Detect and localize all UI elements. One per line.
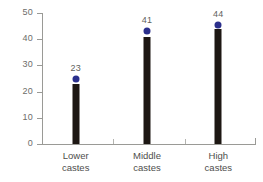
- y-axis-tick-label: 30: [8, 59, 33, 69]
- y-axis-tick-label: 0: [8, 138, 33, 148]
- data-point-marker: [215, 21, 222, 28]
- y-axis-tick-label: 40: [8, 33, 33, 43]
- data-point-marker: [72, 75, 79, 82]
- y-axis-tick-label: 50: [8, 7, 33, 17]
- x-axis-category-label: Middlecastes: [133, 150, 161, 174]
- y-axis-tick: [37, 13, 42, 14]
- y-axis-tick: [37, 144, 42, 145]
- y-axis-tick: [37, 92, 42, 93]
- x-axis-end-tick: [255, 138, 256, 144]
- category-label-line: castes: [62, 162, 89, 174]
- bar: [144, 37, 151, 144]
- y-axis-tick: [37, 118, 42, 119]
- y-axis-tick: [37, 39, 42, 40]
- y-axis-tick-label: 20: [8, 86, 33, 96]
- bar: [215, 29, 222, 144]
- category-label-line: High: [209, 150, 229, 161]
- bar: [72, 84, 79, 144]
- x-axis-tick: [113, 139, 114, 144]
- category-label-line: Middle: [133, 150, 161, 161]
- y-axis-tick-label: 10: [8, 112, 33, 122]
- category-label-line: castes: [205, 162, 232, 174]
- data-value-label: 41: [142, 15, 152, 25]
- data-value-label: 23: [70, 63, 80, 73]
- x-axis-tick: [185, 139, 186, 144]
- category-label-line: Lower: [63, 150, 89, 161]
- category-label-line: castes: [133, 162, 161, 174]
- x-axis-category-label: Highcastes: [205, 150, 232, 174]
- y-axis-tick: [37, 65, 42, 66]
- y-axis-line: [42, 13, 43, 145]
- x-axis-category-label: Lowercastes: [62, 150, 89, 174]
- data-point-marker: [144, 28, 151, 35]
- bar-chart: 01020304050 234144 LowercastesMiddlecast…: [0, 0, 263, 182]
- data-value-label: 44: [213, 9, 223, 19]
- x-axis-line: [42, 144, 256, 145]
